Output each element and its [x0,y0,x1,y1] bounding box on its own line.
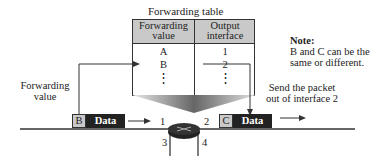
label-line: out of interface 2 [256,93,348,104]
packet-data: Data [233,114,272,128]
interface-3-label: 3 [162,137,167,148]
packet-address-c: C [219,114,233,128]
label-line: Send the packet [256,82,348,93]
note-line: same or different. [290,57,370,68]
outgoing-packet: C Data [219,114,272,128]
send-packet-label: Send the packet out of interface 2 [256,82,348,104]
note-title: Note: [290,35,370,46]
incoming-packet: B Data [72,114,125,128]
router-icon [167,122,201,140]
forwarding-value-label: Forwarding value [14,80,76,102]
packet-data: Data [86,114,125,128]
label-line: value [14,91,76,102]
interface-2-label: 2 [204,116,209,127]
note-line: B and C can be the [290,46,370,57]
interface-4-label: 4 [202,137,207,148]
interface-1-label: 1 [160,116,165,127]
note: Note: B and C can be the same or differe… [290,35,370,68]
packet-address-b: B [72,114,86,128]
label-line: Forwarding [14,80,76,91]
